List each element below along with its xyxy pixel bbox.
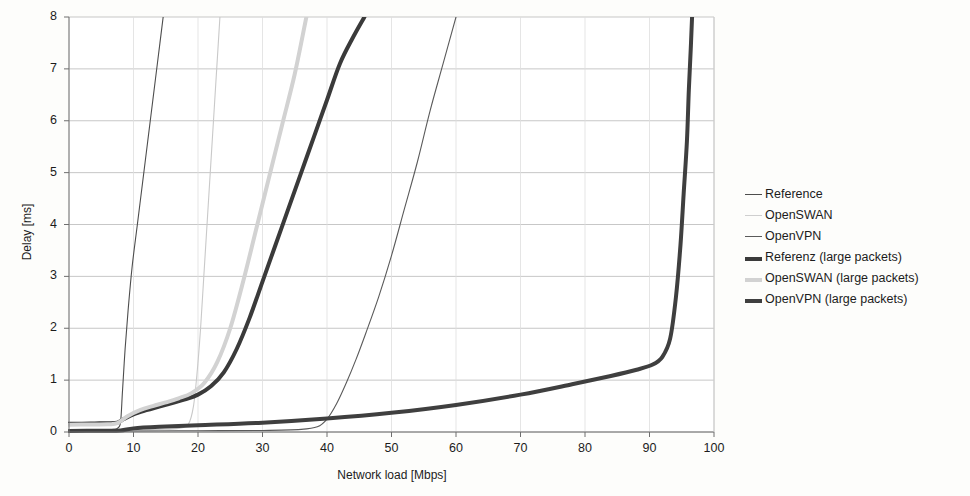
y-tick-label: 7 [31, 61, 57, 75]
legend-label: Referenz (large packets) [765, 250, 902, 264]
x-tick-label: 60 [436, 441, 476, 455]
legend-item[interactable]: OpenSWAN [745, 204, 967, 225]
x-tick-label: 80 [565, 441, 605, 455]
legend-swatch-icon [745, 208, 762, 222]
x-tick-label: 100 [694, 441, 734, 455]
x-tick-label: 70 [501, 441, 541, 455]
y-axis-title: Delay [ms] [20, 187, 34, 277]
x-tick-label: 0 [49, 441, 89, 455]
legend-swatch-icon [745, 271, 762, 285]
chart-figure: Delay [ms] Network load [Mbps] Reference… [0, 0, 970, 496]
y-tick-label: 3 [31, 268, 57, 282]
x-tick-label: 30 [243, 441, 283, 455]
x-axis-title: Network load [Mbps] [322, 468, 462, 482]
legend-label: OpenVPN (large packets) [765, 292, 907, 306]
x-tick-label: 40 [307, 441, 347, 455]
x-tick-label: 50 [372, 441, 412, 455]
y-tick-label: 4 [31, 217, 57, 231]
legend-label: Reference [765, 187, 823, 201]
y-tick-label: 6 [31, 113, 57, 127]
legend-swatch-icon [745, 292, 762, 306]
x-tick-label: 10 [114, 441, 154, 455]
x-tick-label: 20 [178, 441, 218, 455]
legend-swatch-icon [745, 250, 762, 264]
legend-swatch-icon [745, 187, 762, 201]
legend-swatch-icon [745, 229, 762, 243]
legend-item[interactable]: Reference [745, 183, 967, 204]
y-tick-label: 1 [31, 372, 57, 386]
chart-legend: ReferenceOpenSWANOpenVPNReferenz (large … [745, 183, 967, 309]
x-tick-label: 90 [630, 441, 670, 455]
y-tick-label: 0 [31, 424, 57, 438]
legend-item[interactable]: OpenVPN [745, 225, 967, 246]
y-tick-label: 5 [31, 165, 57, 179]
legend-label: OpenVPN [765, 229, 821, 243]
legend-item[interactable]: OpenVPN (large packets) [745, 288, 967, 309]
legend-label: OpenSWAN [765, 208, 833, 222]
legend-label: OpenSWAN (large packets) [765, 271, 919, 285]
legend-item[interactable]: OpenSWAN (large packets) [745, 267, 967, 288]
y-tick-label: 2 [31, 320, 57, 334]
y-tick-label: 8 [31, 9, 57, 23]
legend-item[interactable]: Referenz (large packets) [745, 246, 967, 267]
